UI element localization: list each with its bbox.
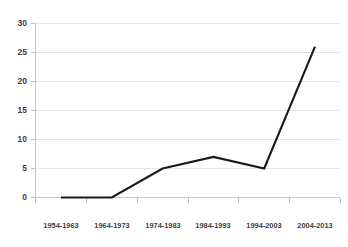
- x-axis-label-2004-2013: 2004-2013: [297, 221, 332, 230]
- y-axis-label-5: 5: [22, 163, 27, 173]
- y-axis-tick-labels: 30 25 20 15 10 5 0: [18, 18, 28, 202]
- y-axis-label-10: 10: [18, 134, 28, 144]
- y-axis-label-30: 30: [18, 18, 28, 28]
- data-line: [61, 47, 315, 198]
- x-axis-label-1984-1993: 1984-1993: [195, 221, 230, 230]
- line-chart: 30 25 20 15 10 5 0 1954-1963 1964-1973 1…: [0, 0, 348, 247]
- x-axis-label-1974-1983: 1974-1983: [145, 221, 180, 230]
- x-axis-tick-labels: 1954-1963 1964-1973 1974-1983 1984-1993 …: [43, 221, 332, 230]
- y-axis-label-25: 25: [18, 47, 28, 57]
- data-series-group: [61, 47, 315, 198]
- chart-canvas: 30 25 20 15 10 5 0 1954-1963 1964-1973 1…: [0, 0, 348, 247]
- y-axis-label-0: 0: [22, 192, 27, 202]
- y-axis-label-20: 20: [18, 76, 28, 86]
- x-axis-label-1964-1973: 1964-1973: [94, 221, 129, 230]
- x-axis-label-1994-2003: 1994-2003: [246, 221, 281, 230]
- x-axis-label-1954-1963: 1954-1963: [43, 221, 78, 230]
- y-axis: [31, 23, 36, 198]
- y-axis-label-15: 15: [18, 105, 28, 115]
